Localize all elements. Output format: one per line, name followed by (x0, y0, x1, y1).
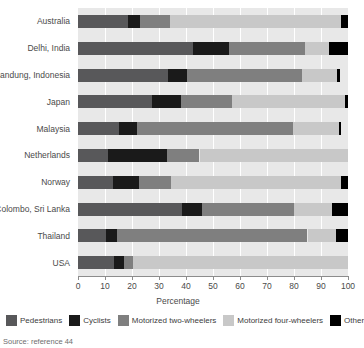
bar-segment (302, 69, 337, 82)
legend-label: Motorized two-wheelers (132, 316, 216, 325)
bar-segment (308, 229, 336, 242)
x-tick-mark (186, 277, 187, 280)
x-tick-mark (348, 277, 349, 280)
source-note: Source: reference 44 (3, 337, 73, 346)
bar-segment (181, 95, 232, 108)
bar-segment (293, 122, 339, 135)
x-tick-label: 70 (262, 281, 271, 291)
bar-segment (294, 203, 332, 216)
legend-item[interactable]: Other (330, 315, 364, 326)
legend-swatch-icon (6, 315, 17, 326)
bar-segment (232, 95, 345, 108)
bar-segment (339, 122, 342, 135)
bar-segment (139, 176, 171, 189)
bar-segment (124, 256, 133, 269)
bar-row (78, 229, 348, 242)
bar-segment (78, 229, 106, 242)
y-axis-label: Colombo, Sri Lanka (0, 204, 70, 214)
bar-segment (78, 95, 152, 108)
x-axis-ticks: 0102030405060708090100 (78, 277, 349, 293)
bar-row (78, 42, 348, 55)
x-tick-label: 20 (127, 281, 136, 291)
x-tick-label: 60 (235, 281, 244, 291)
bar-segment (78, 42, 193, 55)
y-axis-label: Japan (47, 97, 70, 107)
y-axis-label: Thailand (37, 231, 70, 241)
bar-row (78, 256, 348, 269)
bar-segment (167, 149, 199, 162)
bar-segment (345, 95, 348, 108)
bar-segment (114, 256, 123, 269)
bar-row (78, 15, 348, 28)
bar-segment (133, 256, 348, 269)
bar-row (78, 176, 348, 189)
bar-segment (171, 176, 341, 189)
legend-label: Cyclists (83, 316, 111, 325)
y-axis-label: Australia (37, 16, 70, 26)
bar-segment (170, 15, 341, 28)
bar-segment (193, 42, 229, 55)
bar-segment (119, 122, 138, 135)
bar-segment (229, 42, 305, 55)
bar-segment (168, 69, 187, 82)
y-axis-label: Delhi, India (27, 43, 70, 53)
plot-area (78, 8, 348, 276)
x-tick-label: 90 (316, 281, 325, 291)
bar-segment (187, 69, 302, 82)
legend-item[interactable]: Motorized four-wheelers (223, 315, 323, 326)
x-tick-label: 40 (181, 281, 190, 291)
legend-label: Other (344, 316, 364, 325)
bar-row (78, 149, 348, 162)
y-axis-label: Bandung, Indonesia (0, 70, 70, 80)
bar-segment (108, 149, 167, 162)
bar-segment (113, 176, 139, 189)
x-tick-label: 80 (289, 281, 298, 291)
legend-label: Motorized four-wheelers (237, 316, 323, 325)
y-axis-label: Malaysia (36, 124, 70, 134)
bar-segment (78, 69, 168, 82)
y-axis-label: Norway (41, 177, 70, 187)
x-axis-title: Percentage (0, 296, 356, 306)
bar-segment (140, 15, 170, 28)
bar-row (78, 69, 348, 82)
x-tick-mark (213, 277, 214, 280)
chart-legend: PedestriansCyclistsMotorized two-wheeler… (6, 313, 354, 327)
bar-segment (78, 256, 114, 269)
bar-segment (137, 122, 292, 135)
x-tick-mark (294, 277, 295, 280)
bar-segment (78, 15, 128, 28)
x-tick-mark (78, 277, 79, 280)
x-tick-mark (321, 277, 322, 280)
y-axis-label: Netherlands (24, 150, 70, 160)
legend-item[interactable]: Motorized two-wheelers (118, 315, 216, 326)
legend-swatch-icon (69, 315, 80, 326)
y-axis-category-labels: AustraliaDelhi, IndiaBandung, IndonesiaJ… (0, 8, 74, 276)
bar-segment (329, 42, 348, 55)
x-tick-mark (105, 277, 106, 280)
bar-segment (337, 69, 340, 82)
bar-row (78, 122, 348, 135)
bar-segment (336, 229, 348, 242)
bar-segment (78, 203, 182, 216)
x-tick-mark (159, 277, 160, 280)
bar-segment (117, 229, 307, 242)
x-tick-label: 0 (76, 281, 81, 291)
gridline-100 (348, 8, 349, 276)
bar-row (78, 95, 348, 108)
bar-segment (341, 15, 348, 28)
bar-row (78, 203, 348, 216)
legend-swatch-icon (330, 315, 341, 326)
legend-item[interactable]: Cyclists (69, 315, 111, 326)
x-tick-mark (267, 277, 268, 280)
x-tick-label: 30 (154, 281, 163, 291)
x-tick-mark (132, 277, 133, 280)
bar-segment (200, 149, 349, 162)
x-tick-label: 50 (208, 281, 217, 291)
legend-item[interactable]: Pedestrians (6, 315, 62, 326)
x-tick-label: 10 (100, 281, 109, 291)
bar-segment (341, 176, 348, 189)
bar-segment (182, 203, 202, 216)
x-tick-mark (240, 277, 241, 280)
legend-swatch-icon (118, 315, 129, 326)
